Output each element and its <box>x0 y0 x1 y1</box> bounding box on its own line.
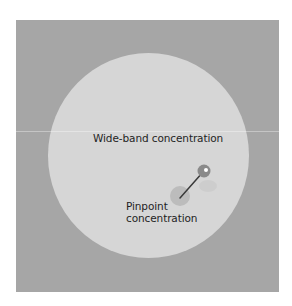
pinpoint-label: Pinpoint concentration <box>126 200 197 224</box>
pinpoint-label-line2: concentration <box>126 212 197 224</box>
wide-band-zone <box>48 53 249 258</box>
pinpoint-label-line1: Pinpoint <box>126 200 197 212</box>
wide-band-label: Wide-band concentration <box>93 132 223 144</box>
